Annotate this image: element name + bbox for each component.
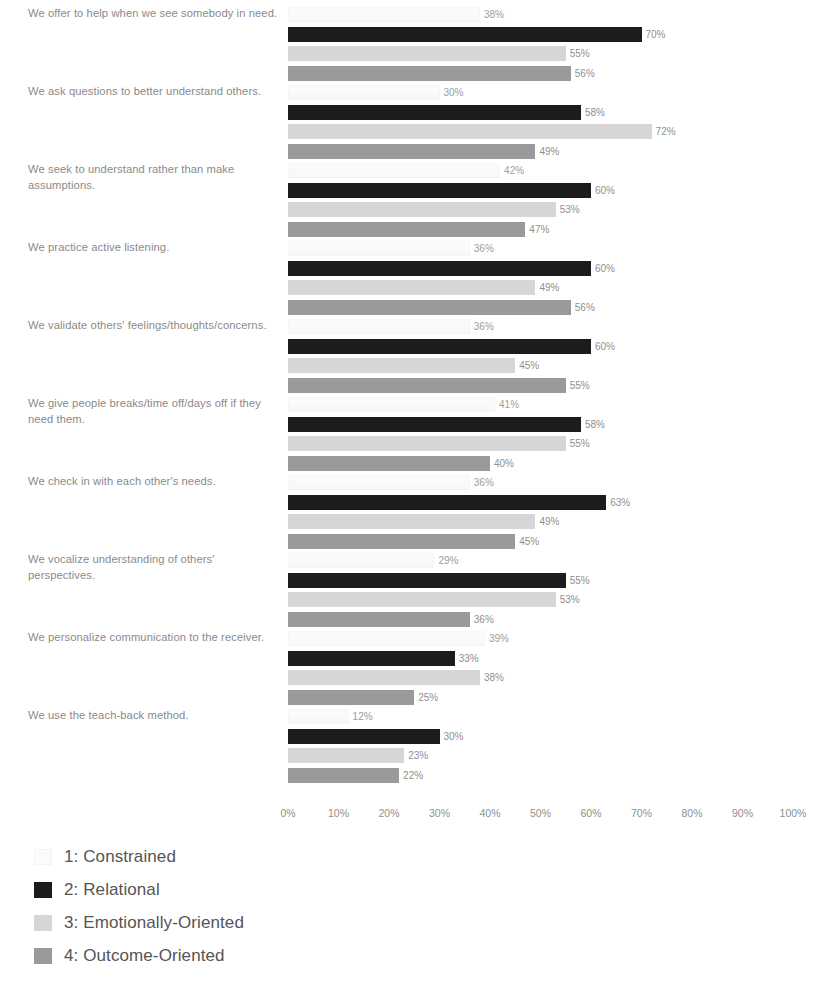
bar-series-4 xyxy=(288,66,571,81)
x-axis-tick: 70% xyxy=(631,806,652,820)
bar-value-label: 38% xyxy=(480,671,504,684)
bar-row: 55% xyxy=(288,572,836,592)
legend-item[interactable]: 1: Constrained xyxy=(34,840,434,873)
category-label: We practice active listening. xyxy=(28,240,280,256)
bar-row: 55% xyxy=(288,45,836,65)
bar-group: 36%60%45%55% xyxy=(288,318,836,396)
x-axis-tick: 50% xyxy=(530,806,551,820)
bar-value-label: 12% xyxy=(349,710,373,723)
category-label: We check in with each other's needs. xyxy=(28,474,280,490)
legend-swatch-icon xyxy=(34,849,52,865)
legend-label: 2: Relational xyxy=(64,880,160,900)
legend-item[interactable]: 2: Relational xyxy=(34,873,434,906)
bar-value-label: 49% xyxy=(535,145,559,158)
x-axis-tick: 10% xyxy=(328,806,349,820)
bar-row: 60% xyxy=(288,182,836,202)
bar-series-4 xyxy=(288,378,566,393)
x-axis-tick: 40% xyxy=(479,806,500,820)
category-label: We give people breaks/time off/days off … xyxy=(28,396,280,427)
bar-row: 36% xyxy=(288,611,836,631)
bar-value-label: 60% xyxy=(591,340,615,353)
bar-value-label: 25% xyxy=(414,691,438,704)
bar-group: 39%33%38%25% xyxy=(288,630,836,708)
bar-series-4 xyxy=(288,534,515,549)
x-axis-tick: 80% xyxy=(681,806,702,820)
bar-series-4 xyxy=(288,690,414,705)
bar-group: 41%58%55%40% xyxy=(288,396,836,474)
bar-row: 36% xyxy=(288,240,836,260)
bar-series-1 xyxy=(288,475,470,490)
bar-series-3 xyxy=(288,670,480,685)
x-axis-tick: 20% xyxy=(378,806,399,820)
bar-row: 72% xyxy=(288,123,836,143)
bar-group: 29%55%53%36% xyxy=(288,552,836,630)
bar-value-label: 39% xyxy=(485,632,509,645)
bar-value-label: 56% xyxy=(571,67,595,80)
bar-row: 49% xyxy=(288,279,836,299)
legend-item[interactable]: 3: Emotionally-Oriented xyxy=(34,906,434,939)
bar-value-label: 38% xyxy=(480,8,504,21)
bar-row: 63% xyxy=(288,494,836,514)
legend-label: 3: Emotionally-Oriented xyxy=(64,913,244,933)
bar-value-label: 55% xyxy=(566,379,590,392)
bar-value-label: 63% xyxy=(606,496,630,509)
grouped-bar-chart: We offer to help when we see somebody in… xyxy=(0,0,836,994)
bar-series-1 xyxy=(288,553,434,568)
bar-group: 42%60%53%47% xyxy=(288,162,836,240)
bar-row: 56% xyxy=(288,299,836,319)
legend-swatch-icon xyxy=(34,948,52,964)
x-axis-tick: 90% xyxy=(732,806,753,820)
bar-value-label: 30% xyxy=(440,730,464,743)
bar-row: 42% xyxy=(288,162,836,182)
x-axis: 0%10%20%30%40%50%60%70%80%90%100% xyxy=(288,806,836,826)
bar-series-3 xyxy=(288,202,556,217)
bar-value-label: 55% xyxy=(566,47,590,60)
bar-series-3 xyxy=(288,358,515,373)
bar-row: 53% xyxy=(288,201,836,221)
category-label: We use the teach-back method. xyxy=(28,708,280,724)
bar-value-label: 29% xyxy=(434,554,458,567)
bar-value-label: 53% xyxy=(556,203,580,216)
bar-row: 23% xyxy=(288,747,836,767)
bar-group: 36%63%49%45% xyxy=(288,474,836,552)
x-axis-tick: 0% xyxy=(280,806,295,820)
bar-series-1 xyxy=(288,397,495,412)
legend-swatch-icon xyxy=(34,882,52,898)
bar-value-label: 60% xyxy=(591,262,615,275)
bar-value-label: 45% xyxy=(515,535,539,548)
bar-series-4 xyxy=(288,222,525,237)
legend-swatch-icon xyxy=(34,915,52,931)
bar-row: 12% xyxy=(288,708,836,728)
bar-row: 40% xyxy=(288,455,836,475)
category-label: We personalize communication to the rece… xyxy=(28,630,280,646)
bar-value-label: 22% xyxy=(399,769,423,782)
bar-value-label: 60% xyxy=(591,184,615,197)
bar-value-label: 70% xyxy=(642,28,666,41)
bar-value-label: 47% xyxy=(525,223,549,236)
bar-series-2 xyxy=(288,183,591,198)
bar-row: 56% xyxy=(288,65,836,85)
bar-row: 53% xyxy=(288,591,836,611)
category-label: We validate others' feelings/thoughts/co… xyxy=(28,318,280,334)
bar-series-3 xyxy=(288,592,556,607)
bar-row: 36% xyxy=(288,474,836,494)
legend-label: 4: Outcome-Oriented xyxy=(64,946,225,966)
bar-value-label: 45% xyxy=(515,359,539,372)
bar-series-2 xyxy=(288,27,642,42)
category-label: We ask questions to better understand ot… xyxy=(28,84,280,100)
bar-series-3 xyxy=(288,280,535,295)
bar-series-1 xyxy=(288,319,470,334)
bar-value-label: 55% xyxy=(566,437,590,450)
bar-row: 60% xyxy=(288,260,836,280)
bar-series-1 xyxy=(288,163,500,178)
bar-series-4 xyxy=(288,612,470,627)
bar-value-label: 49% xyxy=(535,515,559,528)
x-axis-tick: 30% xyxy=(429,806,450,820)
bar-row: 45% xyxy=(288,533,836,553)
legend-item[interactable]: 4: Outcome-Oriented xyxy=(34,939,434,972)
bar-value-label: 36% xyxy=(470,242,494,255)
bar-series-1 xyxy=(288,85,440,100)
bar-value-label: 56% xyxy=(571,301,595,314)
category-label: We vocalize understanding of others' per… xyxy=(28,552,280,583)
bar-series-3 xyxy=(288,748,404,763)
